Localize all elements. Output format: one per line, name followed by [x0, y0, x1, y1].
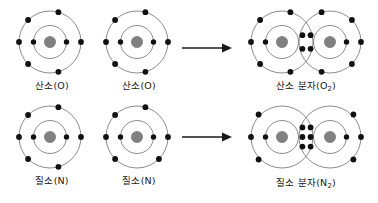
- electron-outer: [256, 157, 262, 163]
- electron-outer: [358, 134, 364, 140]
- nucleus: [44, 131, 55, 142]
- shared-electron: [300, 134, 306, 140]
- electron-outer: [56, 164, 62, 170]
- electron-inner: [31, 134, 36, 139]
- label-n2-base: 질소 분자(N: [276, 177, 327, 188]
- electron-outer: [351, 112, 357, 118]
- nucleus: [276, 131, 287, 142]
- electron-inner: [64, 134, 69, 139]
- electron-outer: [112, 112, 118, 118]
- electron-outer: [78, 39, 84, 45]
- electron-outer: [165, 134, 171, 140]
- shared-electron: [308, 32, 314, 38]
- nucleus: [131, 36, 142, 47]
- electron-outer: [25, 61, 31, 67]
- electron-inner: [118, 134, 123, 139]
- electron-outer: [257, 61, 263, 67]
- electron-inner: [344, 134, 349, 139]
- nucleus: [324, 36, 335, 47]
- electron-outer: [78, 134, 84, 140]
- arrow-head: [222, 133, 232, 142]
- arrow-head: [222, 44, 232, 53]
- label-nitrogen-left: 질소(N): [35, 175, 69, 186]
- electron-outer: [349, 61, 355, 67]
- label-o2-base: 산소 분자(O: [276, 80, 328, 91]
- electron-outer: [25, 17, 31, 23]
- electron-outer: [16, 134, 22, 140]
- electron-outer: [103, 134, 109, 140]
- reaction-arrow-nitrogen: [182, 133, 232, 142]
- electron-outer: [16, 39, 22, 45]
- electron-inner: [31, 39, 36, 44]
- nucleus: [324, 131, 335, 142]
- electron-outer: [112, 61, 118, 67]
- electron-outer: [112, 17, 118, 23]
- label-n2-tail: ): [332, 177, 336, 188]
- oxygen-row: 산소(O) 산소(O): [16, 9, 364, 92]
- electron-inner: [118, 39, 123, 44]
- molecule-n2: [248, 106, 364, 168]
- electron-outer: [56, 104, 62, 110]
- shared-electron: [300, 46, 306, 52]
- electron-outer: [103, 39, 109, 45]
- shared-electron-pair-n2: [300, 125, 314, 150]
- electron-outer: [143, 104, 149, 110]
- electron-outer: [257, 17, 263, 23]
- electron-inner: [263, 39, 268, 44]
- nucleus: [131, 131, 142, 142]
- shared-electron-pair-o2: [300, 32, 314, 51]
- electron-outer: [143, 9, 149, 15]
- atom-nitrogen-left: [16, 104, 84, 169]
- electron-outer: [25, 112, 31, 118]
- electron-outer: [358, 39, 364, 45]
- electron-outer: [56, 69, 62, 75]
- electron-outer: [256, 112, 262, 118]
- electron-outer: [56, 9, 62, 15]
- shared-electron: [308, 125, 314, 131]
- label-nitrogen-right: 질소(N): [122, 175, 156, 186]
- shared-electron: [300, 32, 306, 38]
- electron-inner: [151, 39, 156, 44]
- electron-inner: [64, 39, 69, 44]
- o2-atom-left: [248, 9, 313, 74]
- shared-electron: [308, 46, 314, 52]
- electron-outer: [156, 156, 162, 162]
- label-o2-tail: ): [332, 80, 336, 91]
- atom-nitrogen-right: [103, 104, 171, 168]
- label-n2-molecule: 질소 분자(N2): [276, 177, 336, 190]
- nucleus: [276, 36, 287, 47]
- electron-outer: [143, 69, 149, 75]
- nucleus: [44, 36, 55, 47]
- electron-inner: [263, 134, 268, 139]
- reaction-arrow-oxygen: [182, 44, 232, 53]
- shared-electron: [300, 125, 306, 131]
- covalent-bonding-diagram: 산소(O) 산소(O): [0, 0, 378, 203]
- atom-oxygen-right: [103, 9, 171, 74]
- nitrogen-row: 질소(N) 질소(N): [16, 104, 364, 189]
- label-oxygen-right: 산소(O): [122, 80, 156, 91]
- label-o2-molecule: 산소 분자(O2): [276, 80, 336, 93]
- electron-outer: [248, 134, 254, 140]
- electron-outer: [112, 156, 118, 162]
- electron-outer: [248, 39, 254, 45]
- electron-outer: [25, 156, 31, 162]
- electron-outer: [165, 39, 171, 45]
- label-oxygen-left: 산소(O): [35, 80, 69, 91]
- electron-outer: [349, 17, 355, 23]
- electron-outer: [351, 157, 357, 163]
- o2-atom-right: [299, 9, 364, 74]
- electron-outer: [288, 69, 294, 75]
- electron-inner: [151, 134, 156, 139]
- molecule-o2: [248, 9, 364, 74]
- shared-electron: [308, 134, 314, 140]
- shared-electron: [300, 144, 306, 150]
- atom-oxygen-left: [16, 9, 84, 74]
- electron-outer: [288, 9, 294, 15]
- diagram-canvas: 산소(O) 산소(O): [0, 0, 378, 203]
- electron-outer: [319, 69, 325, 75]
- shared-electron: [308, 144, 314, 150]
- electron-inner: [344, 39, 349, 44]
- electron-outer: [319, 9, 325, 15]
